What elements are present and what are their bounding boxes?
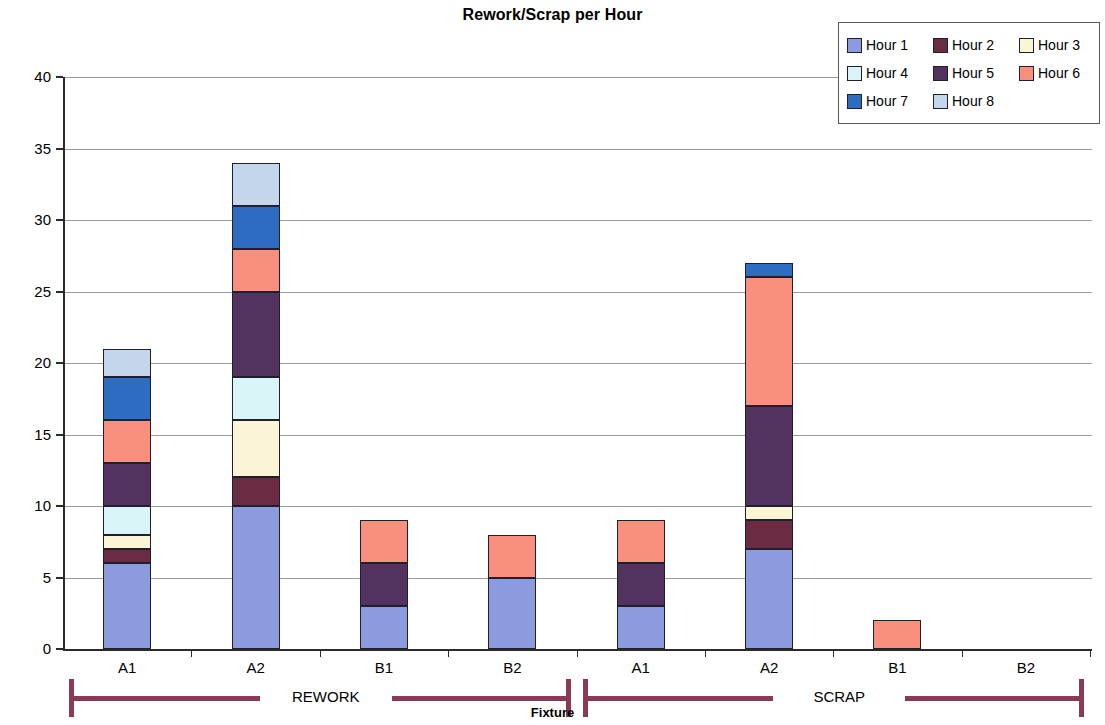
bar-segment[interactable] [745, 506, 793, 520]
y-tick-mark [56, 148, 63, 150]
y-tick-mark [56, 291, 63, 293]
bar-segment[interactable] [232, 477, 280, 506]
x-tick-label: A2 [734, 659, 804, 676]
bar-segment[interactable] [745, 406, 793, 506]
group-label: SCRAP [773, 688, 905, 705]
bar-segment[interactable] [232, 206, 280, 249]
stacked-bar[interactable] [617, 77, 665, 649]
legend-item[interactable]: Hour 4 [847, 65, 933, 81]
x-tick-mark [191, 650, 192, 657]
bar-segment[interactable] [103, 463, 151, 506]
gridline [65, 149, 1092, 150]
legend-item[interactable]: Hour 7 [847, 93, 933, 109]
bar-segment[interactable] [103, 549, 151, 563]
legend-swatch-icon [847, 66, 862, 81]
gridline [65, 435, 1092, 436]
x-tick-mark [705, 650, 706, 657]
bar-segment[interactable] [360, 563, 408, 606]
x-tick-label: A1 [606, 659, 676, 676]
bar-segment[interactable] [617, 563, 665, 606]
y-tick-mark [56, 577, 63, 579]
legend-swatch-icon [847, 94, 862, 109]
y-tick-label: 0 [11, 640, 51, 657]
stacked-bar[interactable] [745, 77, 793, 649]
gridline [65, 506, 1092, 507]
bar-segment[interactable] [103, 349, 151, 378]
legend-label: Hour 6 [1038, 65, 1080, 81]
bar-segment[interactable] [103, 535, 151, 549]
y-tick-label: 25 [11, 283, 51, 300]
bar-segment[interactable] [360, 520, 408, 563]
x-tick-mark [1090, 650, 1091, 657]
y-tick-label: 30 [11, 211, 51, 228]
x-tick-mark [962, 650, 963, 657]
legend-swatch-icon [1019, 66, 1034, 81]
legend-item[interactable]: Hour 3 [1019, 37, 1097, 53]
bar-segment[interactable] [103, 377, 151, 420]
chart-legend: Hour 1Hour 2Hour 3Hour 4Hour 5Hour 6Hour… [838, 22, 1100, 124]
bar-segment[interactable] [232, 163, 280, 206]
x-tick-mark [448, 650, 449, 657]
legend-item[interactable]: Hour 5 [933, 65, 1019, 81]
bar-segment[interactable] [745, 549, 793, 649]
legend-item[interactable]: Hour 2 [933, 37, 1019, 53]
legend-swatch-icon [1019, 38, 1034, 53]
y-tick-mark [56, 648, 63, 650]
y-tick-label: 5 [11, 569, 51, 586]
bar-segment[interactable] [873, 620, 921, 649]
legend-swatch-icon [847, 38, 862, 53]
bar-segment[interactable] [232, 249, 280, 292]
bar-segment[interactable] [617, 520, 665, 563]
y-tick-mark [56, 76, 63, 78]
group-label: REWORK [260, 688, 392, 705]
y-tick-label: 20 [11, 354, 51, 371]
legend-label: Hour 8 [952, 93, 994, 109]
x-tick-label: B1 [862, 659, 932, 676]
stacked-bar[interactable] [873, 77, 921, 649]
legend-label: Hour 1 [866, 37, 908, 53]
gridline [65, 220, 1092, 221]
bar-segment[interactable] [745, 263, 793, 277]
y-tick-mark [56, 505, 63, 507]
y-tick-label: 15 [11, 426, 51, 443]
stacked-bar[interactable] [232, 77, 280, 649]
y-tick-mark [56, 434, 63, 436]
x-tick-label: B1 [349, 659, 419, 676]
y-tick-label: 10 [11, 497, 51, 514]
y-tick-mark [56, 362, 63, 364]
legend-label: Hour 3 [1038, 37, 1080, 53]
stacked-bar[interactable] [488, 77, 536, 649]
y-tick-label: 40 [11, 68, 51, 85]
bar-segment[interactable] [745, 277, 793, 406]
stacked-bar[interactable] [1002, 77, 1050, 649]
bar-segment[interactable] [488, 535, 536, 578]
legend-label: Hour 4 [866, 65, 908, 81]
bar-segment[interactable] [360, 606, 408, 649]
bar-segment[interactable] [232, 420, 280, 477]
bar-segment[interactable] [232, 292, 280, 378]
bar-segment[interactable] [103, 506, 151, 535]
bar-segment[interactable] [232, 506, 280, 649]
legend-item[interactable]: Hour 6 [1019, 65, 1097, 81]
legend-label: Hour 5 [952, 65, 994, 81]
bar-segment[interactable] [103, 420, 151, 463]
bar-segment[interactable] [232, 377, 280, 420]
legend-item[interactable]: Hour 8 [933, 93, 1019, 109]
bar-segment[interactable] [745, 520, 793, 549]
legend-swatch-icon [933, 38, 948, 53]
bar-segment[interactable] [488, 578, 536, 650]
bar-segment[interactable] [617, 606, 665, 649]
x-tick-mark [577, 650, 578, 657]
x-tick-mark [320, 650, 321, 657]
legend-swatch-icon [933, 94, 948, 109]
x-axis-title: Fixture [0, 705, 1105, 720]
x-tick-label: B2 [477, 659, 547, 676]
legend-item[interactable]: Hour 1 [847, 37, 933, 53]
x-tick-mark [833, 650, 834, 657]
bar-segment[interactable] [103, 563, 151, 649]
gridline [65, 292, 1092, 293]
gridline [65, 578, 1092, 579]
stacked-bar[interactable] [360, 77, 408, 649]
legend-label: Hour 2 [952, 37, 994, 53]
stacked-bar[interactable] [103, 77, 151, 649]
